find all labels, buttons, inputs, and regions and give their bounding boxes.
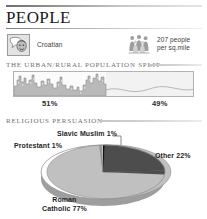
language-fact: Croatian [7,34,62,56]
speech-bubble-face-icon [7,34,30,56]
pie-slices [47,145,171,199]
urban-rural-graphic [13,71,194,97]
density-fact: 207 people per sq.mile [128,34,190,54]
crowd-people-glyph [128,34,150,54]
pie-label-other: Other 22% [155,152,191,161]
religious-persuasion-chart: Slavic Muslim 1% Protestant 1% Other 22%… [0,126,207,219]
urban-percent: 51% [42,99,58,108]
speech-bubble-face-glyph [8,35,29,55]
language-label: Croatian [37,41,62,49]
crowd-people-icon [128,34,150,54]
density-label: 207 people per sq.mile [157,36,190,52]
section-rule-religion [100,120,202,122]
section-rule-urban-rural [149,64,202,66]
urban-rural-chart [13,71,194,97]
rural-percent: 49% [152,99,168,108]
pie-graphic [0,126,207,219]
pie-label-protestant: Protestant 1% [14,142,62,151]
rural-panel [106,72,193,96]
pie-label-roman-catholic: Roman Catholic 77% [42,196,87,213]
section-heading-urban-rural: THE URBAN/RURAL POPULATION SPLIT [6,61,161,70]
section-heading-religion: RELIGIOUS PERSUASION [6,117,103,126]
pie-label-slavic-muslim: Slavic Muslim 1% [57,130,117,139]
title-underline [6,28,202,29]
people-infographic-panel: PEOPLE Croatian [0,0,207,219]
top-divider [6,5,202,7]
page-title: PEOPLE [6,8,71,27]
